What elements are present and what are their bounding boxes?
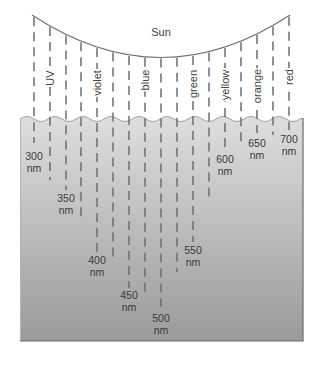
depth-label-350: 350 nm xyxy=(57,192,75,216)
spectrum-label-blue: blue xyxy=(139,69,151,92)
depth-value: 400 xyxy=(88,254,106,266)
depth-unit: nm xyxy=(120,301,138,313)
depth-label-500: 500 nm xyxy=(152,312,170,336)
depth-label-650: 650 nm xyxy=(248,137,266,161)
depth-unit: nm xyxy=(88,266,106,278)
spectrum-label-yellow: yellow xyxy=(219,69,231,102)
depth-label-450: 450 nm xyxy=(120,289,138,313)
depth-value: 500 xyxy=(152,312,170,324)
depth-value: 450 xyxy=(120,289,138,301)
spectrum-label-orange: orange xyxy=(251,68,263,104)
depth-label-550: 550 nm xyxy=(184,244,202,268)
depth-unit: nm xyxy=(152,324,170,336)
depth-value: 550 xyxy=(184,244,202,256)
depth-unit: nm xyxy=(57,204,75,216)
depth-value: 700 xyxy=(280,133,298,145)
depth-unit: nm xyxy=(25,162,43,174)
spectrum-label-violet: violet xyxy=(91,69,103,97)
depth-label-700: 700 nm xyxy=(280,133,298,157)
depth-value: 350 xyxy=(57,192,75,204)
depth-label-600: 600 nm xyxy=(216,153,234,177)
spectrum-label-uv: UV xyxy=(44,69,56,86)
depth-value: 650 xyxy=(248,137,266,149)
depth-value: 600 xyxy=(216,153,234,165)
depth-value: 300 xyxy=(25,150,43,162)
spectrum-label-green: green xyxy=(187,69,199,99)
sun-label: Sun xyxy=(148,26,174,38)
depth-label-400: 400 nm xyxy=(88,254,106,278)
depth-unit: nm xyxy=(184,256,202,268)
depth-unit: nm xyxy=(280,145,298,157)
depth-label-300: 300 nm xyxy=(25,150,43,174)
spectrum-label-red: red xyxy=(283,68,295,86)
depth-unit: nm xyxy=(248,149,266,161)
depth-unit: nm xyxy=(216,165,234,177)
